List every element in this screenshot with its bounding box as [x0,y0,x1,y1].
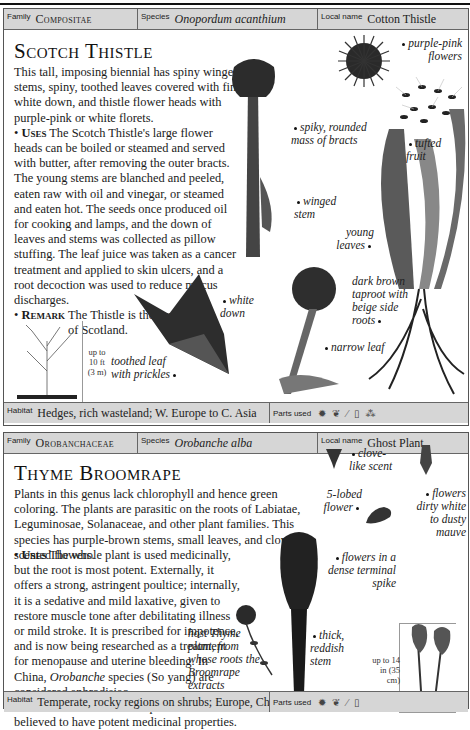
local-name-cell: Local name Cotton Thistle [318,9,468,29]
parts-used-label: Parts used [273,409,311,418]
species-label: Species [141,436,169,445]
local-name-label: Local name [321,12,362,21]
family-cell: Family Orobanchaceae [4,433,138,453]
caption-flowers: purple-pink flowers [382,37,462,63]
uses-label: Uses [21,126,46,140]
caption-clove: clove-like scent [349,447,399,473]
family-value: Orobanchaceae [36,436,114,451]
species-label: Species [141,12,169,21]
habitat-label: Habitat [7,695,32,704]
uses-genus: Orobanche [50,670,105,684]
scale-bracket [82,321,83,403]
caption-toothed-leaf: toothed leaf with prickles [111,355,181,381]
entry-scotch-thistle: Family Compositae Species Onopordum acan… [3,8,469,426]
family-label: Family [7,12,31,21]
flower-icon: ✹ [318,408,326,419]
stem-icon: ⁄ [346,408,348,419]
habitat-cell: Habitat Hedges, rich wasteland; W. Europ… [4,403,270,423]
entry-title: Thyme Broomrape [14,461,181,486]
parts-used-cell: Parts used ✹ ❦ ⁄ ▯ [270,692,468,712]
caption-fruit: tufted fruit [406,137,456,163]
species-cell: Species Onopordum acanthium [138,9,318,29]
species-cell: Species Orobanche alba [138,433,318,453]
height-note: up to 14 in (35 cm) [370,655,400,685]
top-rule [0,3,470,5]
entry-footer: Habitat Temperate, rocky regions on shru… [4,691,468,712]
leaf-icon: ❦ [332,697,340,708]
caption-white-down: white down [220,294,260,320]
family-label: Family [7,436,31,445]
parts-used-cell: Parts used ✹ ❦ ⁄ ▯ ⁂ [270,403,468,423]
caption-narrow-leaf: narrow leaf [322,341,412,354]
local-name-value: Cotton Thistle [367,12,436,27]
plant-sketch-illustration [12,321,82,399]
entry-header: Family Compositae Species Onopordum acan… [4,9,468,30]
parts-used-label: Parts used [273,698,311,707]
caption-stem: winged stem [294,195,344,221]
entry-footer: Habitat Hedges, rich wasteland; W. Europ… [4,402,468,423]
thistle-stem-illustration [226,57,281,262]
lobed-flower-illustration [364,505,394,525]
species-value: Orobanche alba [174,436,252,451]
leaf-icon: ❦ [332,408,340,419]
habitat-label: Habitat [7,406,32,415]
habitat-value: Temperate, rocky regions on shrubs; Euro… [37,695,270,710]
caption-lobed: 5-lobed flower [312,488,362,514]
family-value: Compositae [36,12,92,27]
seed-icon: ▯ [354,697,360,708]
family-cell: Family Compositae [4,9,138,29]
caption-dirty-white: flowers dirty white to dusty mauve [410,487,466,539]
flowering-stem-illustration [259,259,359,399]
habitat-value: Hedges, rich wasteland; W. Europe to C. … [37,406,256,421]
stem-icon: ⁄ [346,697,348,708]
caption-young-leaves: young leaves [329,226,374,252]
entry-title: Scotch Thistle [14,39,153,64]
flower-icon: ✹ [318,697,326,708]
height-note: up to 10 ft (3 m) [86,347,108,377]
species-value: Onopordum acanthium [174,12,285,27]
clove-flower-illustration [324,447,344,469]
caption-bracts: spiky, rounded mass of bracts [291,121,381,147]
uses-label: Uses [21,548,46,562]
caption-taproot: dark brown taproot with beige side roots [352,275,414,327]
local-name-label: Local name [321,436,362,445]
description: This tall, imposing biennial has spiny w… [14,65,242,125]
seed-icon: ▯ [354,408,360,419]
habitat-cell: Habitat Temperate, rocky regions on shru… [4,692,270,712]
root-icon: ⁂ [365,408,375,419]
entry-thyme-broomrape: Family Orobanchaceae Species Orobanche a… [3,432,469,709]
caption-spike: flowers in a dense terminal spike [326,551,396,590]
caption-stem: thick, reddish stem [310,629,360,668]
mauve-flower-illustration [418,445,434,477]
